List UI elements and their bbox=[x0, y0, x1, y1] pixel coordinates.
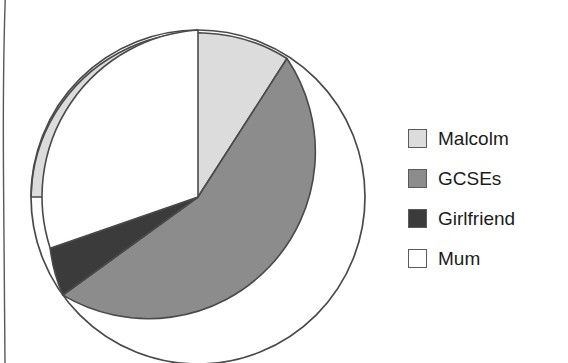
legend-swatch-mum bbox=[408, 249, 427, 268]
legend-label-girlfriend: Girlfriend bbox=[438, 209, 515, 228]
legend-swatch-gcses bbox=[408, 169, 427, 188]
legend-label-mum: Mum bbox=[438, 249, 480, 268]
legend-swatch-girlfriend bbox=[408, 209, 427, 228]
pie-chart-figure: Malcolm GCSEs Girlfriend Mum bbox=[0, 0, 568, 363]
legend-label-malcolm: Malcolm bbox=[438, 129, 509, 148]
legend-swatch-malcolm bbox=[408, 129, 427, 148]
pie-plot-area bbox=[0, 0, 400, 363]
legend-item-gcses[interactable]: GCSEs bbox=[408, 158, 558, 198]
pie-slices bbox=[31, 30, 315, 319]
chart-legend: Malcolm GCSEs Girlfriend Mum bbox=[408, 118, 558, 278]
legend-item-malcolm[interactable]: Malcolm bbox=[408, 118, 558, 158]
pie-svg bbox=[0, 0, 400, 363]
legend-item-mum[interactable]: Mum bbox=[408, 238, 558, 278]
legend-item-girlfriend[interactable]: Girlfriend bbox=[408, 198, 558, 238]
legend-label-gcses: GCSEs bbox=[438, 169, 501, 188]
